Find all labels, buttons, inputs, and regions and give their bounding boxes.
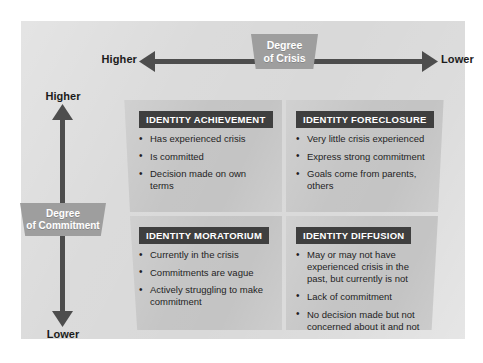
vertical-axis-top-label: Higher [28, 90, 98, 102]
quadrant-bullet-list: Very little crisis experienced Express s… [296, 133, 430, 193]
list-item: Goals come from parents, others [296, 168, 430, 192]
identity-status-diagram: Higher Lower Degree of Crisis Higher Low… [0, 0, 483, 363]
list-item: Is committed [139, 151, 272, 163]
horizontal-axis-right-label: Lower [441, 53, 474, 65]
quadrant-identity-diffusion: IDENTITY DIFFUSION May or may not have e… [286, 216, 446, 330]
quadrant-content: IDENTITY ACHIEVEMENT Has experienced cri… [122, 100, 282, 212]
quadrant-content: IDENTITY FORECLOSURE Very little crisis … [286, 100, 446, 212]
degree-of-commitment-tag-line1: Degree [46, 208, 80, 220]
degree-of-commitment-tag-line2: of Commitment [26, 220, 99, 232]
list-item: May or may not have experienced crisis i… [296, 249, 430, 285]
quadrant-identity-moratorium: IDENTITY MORATORIUM Currently in the cri… [122, 216, 282, 330]
quadrant-title: IDENTITY MORATORIUM [139, 227, 269, 244]
list-item: Very little crisis experienced [296, 133, 430, 145]
quadrant-bullet-list: Has experienced crisis Is committed Deci… [139, 133, 272, 193]
quadrant-bullet-list: Currently in the crisis Commitments are … [139, 249, 272, 309]
list-item: No decision made but not concerned about… [296, 309, 430, 345]
quadrant-title: IDENTITY FORECLOSURE [296, 111, 434, 128]
quadrant-content: IDENTITY DIFFUSION May or may not have e… [286, 216, 446, 330]
degree-of-crisis-tag-line2: of Crisis [263, 52, 305, 64]
quadrant-grid: IDENTITY ACHIEVEMENT Has experienced cri… [122, 100, 446, 330]
quadrant-identity-achievement: IDENTITY ACHIEVEMENT Has experienced cri… [122, 100, 282, 212]
quadrant-title: IDENTITY DIFFUSION [296, 227, 411, 244]
degree-of-crisis-tag: Degree of Crisis [251, 34, 318, 69]
list-item: Decision made on own terms [139, 168, 272, 192]
horizontal-axis-left-label: Higher [99, 53, 137, 65]
quadrant-content: IDENTITY MORATORIUM Currently in the cri… [122, 216, 282, 330]
quadrant-identity-foreclosure: IDENTITY FORECLOSURE Very little crisis … [286, 100, 446, 212]
vertical-axis-bottom-label: Lower [28, 328, 98, 340]
degree-of-commitment-tag: Degree of Commitment [20, 203, 106, 236]
list-item: Has experienced crisis [139, 133, 272, 145]
list-item: Commitments are vague [139, 267, 272, 279]
list-item: Actively struggling to make commitment [139, 284, 272, 308]
quadrant-title: IDENTITY ACHIEVEMENT [139, 111, 273, 128]
degree-of-crisis-tag-line1: Degree [267, 39, 303, 51]
list-item: Lack of commitment [296, 291, 430, 303]
list-item: Express strong commitment [296, 151, 430, 163]
list-item: Currently in the crisis [139, 249, 272, 261]
